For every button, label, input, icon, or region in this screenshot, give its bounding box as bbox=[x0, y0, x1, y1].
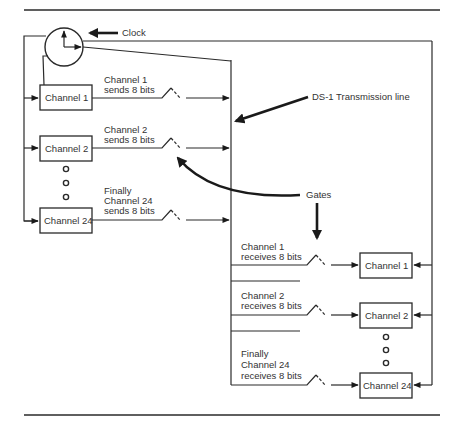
svg-text:receives 8 bits: receives 8 bits bbox=[241, 251, 302, 262]
receiver-channel-24: Finally Channel 24 receives 8 bits Chann… bbox=[231, 348, 412, 398]
svg-text:sends 8 bits: sends 8 bits bbox=[104, 134, 155, 145]
ds1-tdm-diagram: Clock DS-1 Transmission line Channel 1 C… bbox=[0, 0, 460, 425]
clock-to-ch1-line bbox=[43, 56, 48, 85]
receiver-ellipsis-dots bbox=[383, 334, 388, 365]
receiver-channel-1: Channel 1 receives 8 bits Channel 1 bbox=[231, 241, 412, 278]
sender-ellipsis-dots bbox=[63, 166, 68, 199]
sender-channel-2: Channel 2 Channel 2 sends 8 bits bbox=[40, 124, 229, 161]
svg-text:Channel 2: Channel 2 bbox=[365, 310, 408, 321]
svg-text:receives 8 bits: receives 8 bits bbox=[241, 370, 302, 381]
svg-text:Channel 24: Channel 24 bbox=[44, 215, 93, 226]
transmission-pointer-arrow bbox=[236, 97, 308, 121]
clock-icon bbox=[45, 28, 83, 66]
svg-text:receives 8 bits: receives 8 bits bbox=[241, 300, 302, 311]
svg-text:Channel 24: Channel 24 bbox=[363, 380, 412, 391]
svg-text:Channel 24: Channel 24 bbox=[241, 359, 290, 370]
svg-text:sends 8 bits: sends 8 bits bbox=[104, 205, 155, 216]
svg-text:Channel 1: Channel 1 bbox=[365, 260, 408, 271]
sender-channel-1: Channel 1 Channel 1 sends 8 bits bbox=[40, 74, 229, 110]
transmission-line-label: DS-1 Transmission line bbox=[312, 91, 410, 102]
svg-text:Channel 2: Channel 2 bbox=[45, 143, 88, 154]
svg-text:Channel 1: Channel 1 bbox=[45, 92, 88, 103]
clock-label: Clock bbox=[122, 27, 146, 38]
sender-channel-24: Channel 24 Finally Channel 24 sends 8 bi… bbox=[40, 185, 229, 233]
svg-text:Finally: Finally bbox=[241, 348, 269, 359]
receiver-channel-2: Channel 2 receives 8 bits Channel 2 bbox=[231, 290, 412, 328]
svg-text:sends 8 bits: sends 8 bits bbox=[104, 84, 155, 95]
gates-curved-arrow bbox=[178, 158, 300, 196]
gates-label: Gates bbox=[306, 189, 332, 200]
clock-diag-line bbox=[83, 47, 231, 61]
